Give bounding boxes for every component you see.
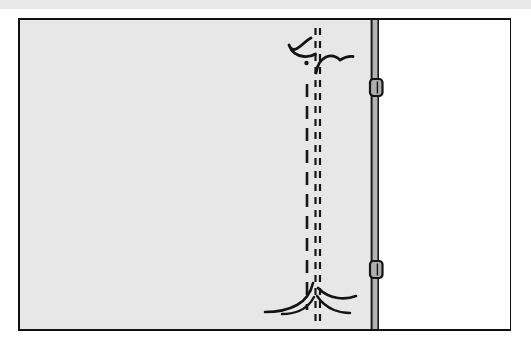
upper-hinge (370, 79, 383, 96)
figure-canvas (0, 0, 531, 342)
open-panel (379, 20, 510, 329)
line-drawing-layer (0, 0, 531, 342)
lower-hinge (370, 261, 383, 278)
bud-mark-dot (304, 61, 308, 65)
